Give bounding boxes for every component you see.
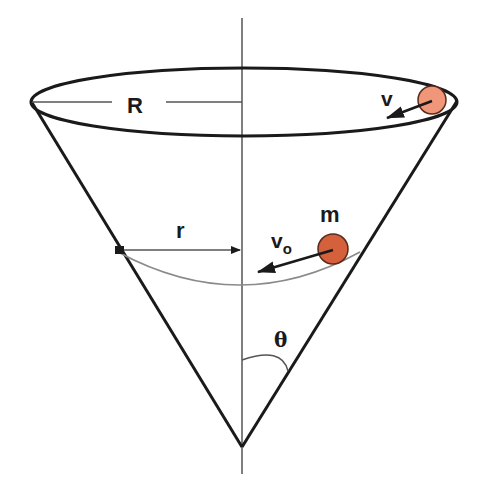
radius-r-start-marker [115, 246, 124, 254]
ball-mass-m [318, 234, 348, 264]
cone-sides [31, 101, 457, 447]
velocity-v0-arrow [258, 250, 333, 272]
label-theta: θ [274, 328, 287, 352]
label-m: m [320, 202, 340, 227]
label-R: R [127, 93, 143, 118]
label-v0: vo [271, 229, 292, 257]
cone-diagram: R r v vo m θ [0, 0, 484, 498]
label-r: r [176, 218, 185, 243]
ball-top [418, 86, 446, 114]
label-v: v [381, 87, 393, 110]
angle-theta-arc [242, 355, 288, 371]
